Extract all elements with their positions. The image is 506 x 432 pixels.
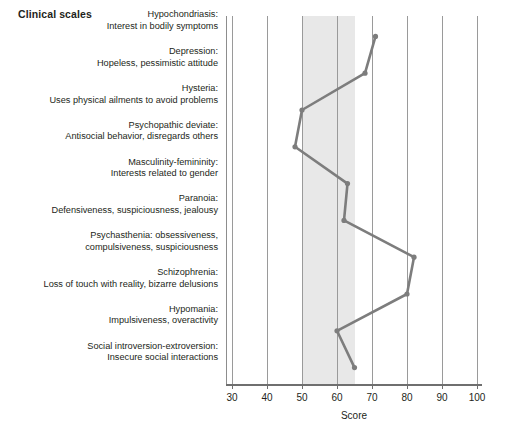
x-tick-100	[477, 384, 478, 389]
x-axis-line	[226, 384, 482, 386]
x-tick-label-50: 50	[287, 392, 317, 403]
scale-description: Uses physical ailments to avoid problems	[0, 95, 218, 107]
gridline-30	[232, 16, 233, 384]
x-tick-label-30: 30	[217, 392, 247, 403]
scale-label-7: Psychasthenia: obsessiveness,compulsiven…	[0, 230, 222, 253]
scale-description: Impulsiveness, overactivity	[0, 315, 218, 327]
x-axis-title: Score	[226, 410, 482, 421]
scale-label-3: Hysteria:Uses physical ailments to avoid…	[0, 83, 222, 106]
scale-label-column: Hypochondriasis:Interest in bodily sympt…	[0, 24, 222, 384]
clinical-scales-chart: Clinical scales Hypochondriasis:Interest…	[0, 0, 506, 432]
gridline-90	[442, 16, 443, 384]
scale-label-8: Schizophrenia:Loss of touch with reality…	[0, 267, 222, 290]
scale-name: Social introversion-extroversion:	[0, 341, 218, 353]
x-tick-label-100: 100	[462, 392, 492, 403]
scale-name: Masculinity-femininity:	[0, 157, 218, 169]
gridline-70	[372, 16, 373, 384]
x-tick-label-80: 80	[392, 392, 422, 403]
scale-label-1: Hypochondriasis:Interest in bodily sympt…	[0, 9, 222, 32]
scale-name: Schizophrenia:	[0, 267, 218, 279]
scale-description: Hopeless, pessimistic attitude	[0, 58, 218, 70]
scale-description: Defensiveness, suspiciousness, jealousy	[0, 205, 218, 217]
scale-label-9: Hypomania:Impulsiveness, overactivity	[0, 304, 222, 327]
x-tick-label-90: 90	[427, 392, 457, 403]
scale-name: Hypochondriasis:	[0, 9, 218, 21]
scale-name: Psychasthenia: obsessiveness,	[0, 230, 218, 242]
scale-description: Interests related to gender	[0, 168, 218, 180]
scale-label-6: Paranoia:Defensiveness, suspiciousness, …	[0, 193, 222, 216]
normal-range-band	[302, 16, 355, 384]
scale-name: Psychopathic deviate:	[0, 120, 218, 132]
gridline-100	[477, 16, 478, 384]
scale-description: Insecure social interactions	[0, 352, 218, 364]
plot-left-axis	[226, 16, 227, 384]
scale-name: Paranoia:	[0, 193, 218, 205]
x-tick-50	[302, 384, 303, 389]
scale-description: Antisocial behavior, disregards others	[0, 131, 218, 143]
x-tick-30	[232, 384, 233, 389]
scale-name: Hypomania:	[0, 304, 218, 316]
scale-description: compulsiveness, suspiciousness	[0, 242, 218, 254]
scale-label-4: Psychopathic deviate:Antisocial behavior…	[0, 120, 222, 143]
plot-area	[226, 16, 482, 384]
x-tick-90	[442, 384, 443, 389]
scale-label-2: Depression:Hopeless, pessimistic attitud…	[0, 46, 222, 69]
x-tick-80	[407, 384, 408, 389]
scale-label-5: Masculinity-femininity:Interests related…	[0, 157, 222, 180]
x-tick-70	[372, 384, 373, 389]
scale-name: Depression:	[0, 46, 218, 58]
gridline-50	[302, 16, 303, 384]
x-tick-60	[337, 384, 338, 389]
x-tick-40	[267, 384, 268, 389]
gridline-60	[337, 16, 338, 384]
x-tick-label-60: 60	[322, 392, 352, 403]
x-tick-label-40: 40	[252, 392, 282, 403]
gridline-40	[267, 16, 268, 384]
scale-description: Interest in bodily symptoms	[0, 21, 218, 33]
scale-description: Loss of touch with reality, bizarre delu…	[0, 279, 218, 291]
x-tick-label-70: 70	[357, 392, 387, 403]
scale-label-10: Social introversion-extroversion:Insecur…	[0, 341, 222, 364]
scale-name: Hysteria:	[0, 83, 218, 95]
gridline-80	[407, 16, 408, 384]
